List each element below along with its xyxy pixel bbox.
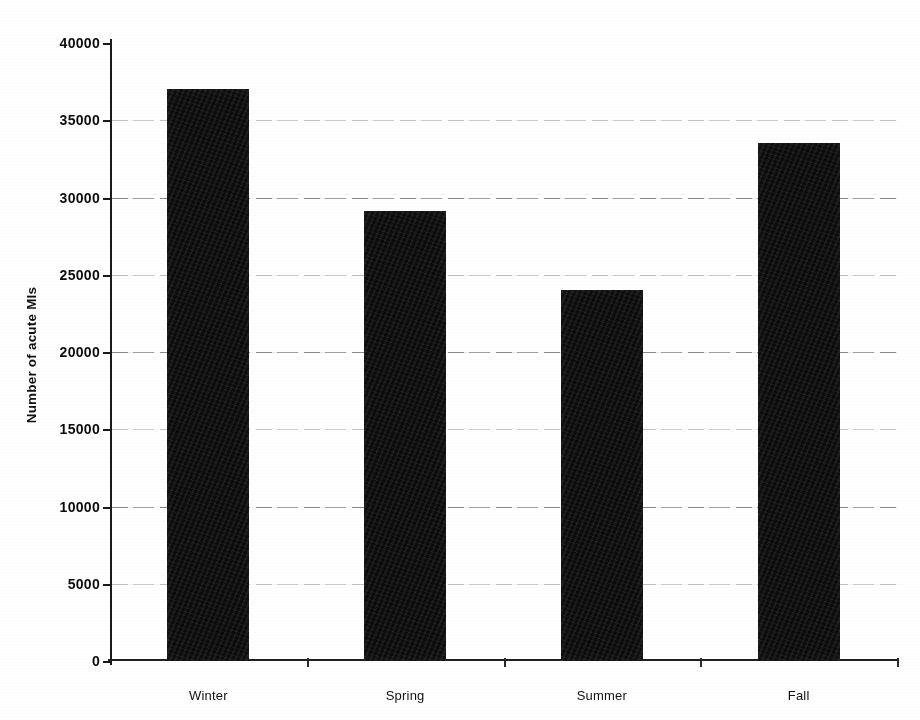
y-axis-tick [103,43,112,45]
y-axis-tick [103,661,112,663]
y-axis-tick [103,198,112,200]
x-axis-tick [700,658,702,667]
bar-summer [561,290,643,661]
x-axis-tick-label: Summer [577,688,627,703]
y-axis-tick-label: 35000 [14,112,100,128]
y-axis-tick-labels: 0500010000150002000025000300003500040000 [14,0,100,720]
x-axis-tick [307,658,309,667]
y-axis-tick-label: 20000 [14,344,100,360]
y-axis-tick [103,429,112,431]
bar-fall [758,143,840,661]
y-axis-tick [103,352,112,354]
y-axis-tick-label: 5000 [14,576,100,592]
bar-spring [364,211,446,661]
y-axis-tick [103,584,112,586]
y-axis-tick [103,120,112,122]
x-axis-tick [504,658,506,667]
bar-winter [167,89,249,661]
y-axis-tick-label: 10000 [14,499,100,515]
y-axis-tick-label: 15000 [14,421,100,437]
y-axis-tick-label: 25000 [14,267,100,283]
y-axis-tick [103,275,112,277]
y-axis-tick [103,507,112,509]
x-axis-tick-label: Spring [386,688,425,703]
bar-chart: Number of acute MIs 05000100001500020000… [0,0,920,720]
y-axis-tick-label: 30000 [14,190,100,206]
x-axis-tick [897,658,899,667]
plot-area [110,43,897,661]
y-axis-tick-label: 0 [14,653,100,669]
y-axis-tick-label: 40000 [14,35,100,51]
x-axis-tick-label: Fall [788,688,810,703]
x-axis-tick-label: Winter [189,688,228,703]
